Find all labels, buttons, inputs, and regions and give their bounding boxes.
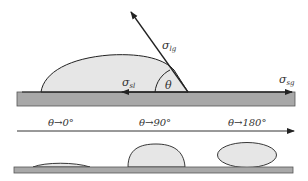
drop-theta-0: [33, 163, 90, 167]
bottom-panel: [14, 143, 293, 174]
top-panel: σlg σsl σsg θ: [17, 12, 295, 106]
tick-label-180: θ→180°: [228, 117, 267, 128]
drop-theta-90: [128, 144, 185, 167]
substrate-top: [17, 92, 295, 106]
contact-angle-scale: θ→0° θ→90° θ→180°: [17, 117, 294, 131]
substrate-bottom: [14, 167, 293, 173]
diagram-svg: σlg σsl σsg θ θ→0° θ→90° θ→180°: [0, 0, 308, 181]
contact-angle-diagram: σlg σsl σsg θ θ→0° θ→90° θ→180°: [0, 0, 308, 181]
tick-label-0: θ→0°: [48, 117, 74, 128]
sigma-lg-label: σlg: [162, 39, 177, 53]
tick-label-90: θ→90°: [139, 117, 171, 128]
theta-label: θ: [165, 79, 172, 92]
drop-theta-180: [218, 143, 277, 168]
sigma-sg-label: σsg: [279, 73, 295, 87]
